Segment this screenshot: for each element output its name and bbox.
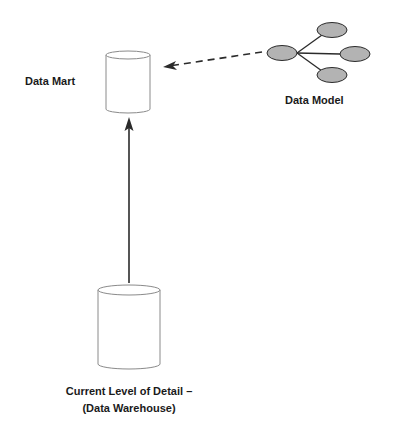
data-mart-label: Data Mart [25,76,75,87]
data-model-label: Data Model [285,95,344,106]
model-to-mart-dashed-arrow [163,52,262,70]
data-warehouse-cylinder [98,285,160,369]
data-warehouse-label: Current Level of Detail – (Data Warehous… [40,383,218,417]
entity-top [317,23,347,38]
data-warehouse-label-line2: (Data Warehouse) [40,400,218,417]
diagram-canvas [0,0,393,427]
entity-right [340,47,370,62]
entity-hub [267,46,297,61]
data-mart-cylinder [106,51,150,113]
data-model-graph [267,23,370,83]
data-warehouse-label-line1: Current Level of Detail – [40,383,218,400]
warehouse-to-mart-arrow [125,117,134,283]
entity-bottom [317,68,347,83]
